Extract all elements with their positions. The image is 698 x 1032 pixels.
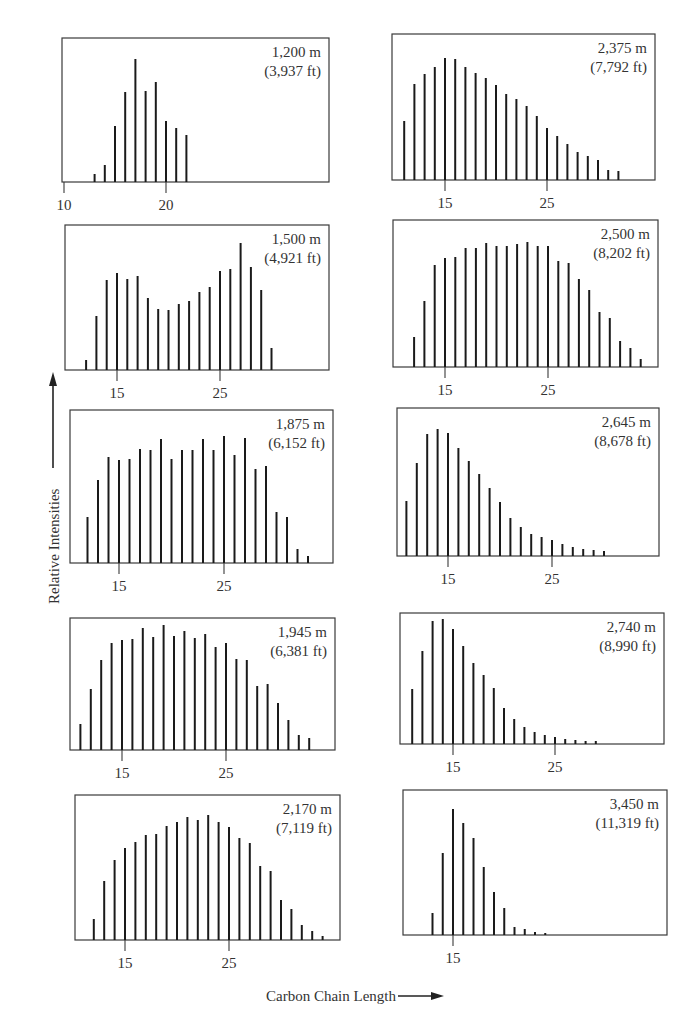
panel-frame xyxy=(393,220,658,367)
x-tick-label: 25 xyxy=(219,765,234,781)
x-tick-label: 25 xyxy=(540,195,555,211)
depth-panel: 15251,875 m(6,152 ft) xyxy=(70,410,333,594)
depth-feet-label: (7,119 ft) xyxy=(276,820,332,837)
depth-meters-label: 2,740 m xyxy=(607,619,657,635)
x-tick-label: 15 xyxy=(446,759,461,775)
x-tick-label: 15 xyxy=(441,571,456,587)
depth-meters-label: 1,875 m xyxy=(276,416,326,432)
x-tick-label: 10 xyxy=(57,197,72,213)
depth-meters-label: 2,170 m xyxy=(283,801,333,817)
x-tick-label: 25 xyxy=(222,955,237,971)
depth-panel: 153,450 m(11,319 ft) xyxy=(403,790,667,966)
x-tick-label: 25 xyxy=(217,578,232,594)
depth-meters-label: 3,450 m xyxy=(610,796,660,812)
depth-feet-label: (7,792 ft) xyxy=(590,59,647,76)
x-axis-arrow-icon xyxy=(396,989,446,1003)
depth-panel: 15252,500 m(8,202 ft) xyxy=(393,220,658,398)
depth-feet-label: (8,678 ft) xyxy=(594,433,651,450)
depth-feet-label: (8,990 ft) xyxy=(599,638,656,655)
x-tick-label: 15 xyxy=(110,385,125,401)
x-tick-label: 15 xyxy=(438,382,453,398)
x-axis-label-text: Carbon Chain Length xyxy=(266,988,396,1005)
depth-meters-label: 2,375 m xyxy=(598,40,648,56)
depth-panel: 15252,645 m(8,678 ft) xyxy=(397,408,659,587)
x-axis-label: Carbon Chain Length xyxy=(266,984,446,1008)
depth-meters-label: 1,200 m xyxy=(272,44,322,60)
x-tick-label: 15 xyxy=(438,195,453,211)
depth-feet-label: (3,937 ft) xyxy=(264,63,321,80)
depth-feet-label: (6,381 ft) xyxy=(270,643,327,660)
x-tick-label: 15 xyxy=(115,765,130,781)
x-tick-label: 25 xyxy=(545,571,560,587)
chromatogram-figure: 10201,200 m(3,937 ft)15252,375 m(7,792 f… xyxy=(0,0,698,1032)
depth-feet-label: (11,319 ft) xyxy=(595,815,659,832)
panel-frame xyxy=(397,408,659,556)
depth-feet-label: (4,921 ft) xyxy=(264,250,321,267)
x-tick-label: 25 xyxy=(548,759,563,775)
x-tick-label: 20 xyxy=(159,197,174,213)
y-axis-label-text: Relative Intensities xyxy=(46,488,62,604)
y-axis-arrow-icon: Relative Intensities xyxy=(8,368,68,608)
depth-feet-label: (6,152 ft) xyxy=(268,435,325,452)
x-tick-label: 15 xyxy=(446,950,461,966)
depth-panel: 15252,740 m(8,990 ft) xyxy=(400,613,664,775)
depth-panel: 15252,170 m(7,119 ft) xyxy=(75,795,340,971)
depth-meters-label: 2,500 m xyxy=(601,226,651,242)
depth-meters-label: 1,500 m xyxy=(272,231,322,247)
depth-panel: 15251,500 m(4,921 ft) xyxy=(65,225,329,401)
depth-panel: 15251,945 m(6,381 ft) xyxy=(70,618,335,781)
depth-panel: 15252,375 m(7,792 ft) xyxy=(392,34,655,211)
depth-meters-label: 1,945 m xyxy=(278,624,328,640)
x-tick-label: 15 xyxy=(118,955,133,971)
y-axis-label: Relative Intensities xyxy=(8,368,68,608)
depth-feet-label: (8,202 ft) xyxy=(593,245,650,262)
depth-panel: 10201,200 m(3,937 ft) xyxy=(57,38,330,213)
depth-meters-label: 2,645 m xyxy=(602,414,652,430)
x-tick-label: 25 xyxy=(213,385,228,401)
x-tick-label: 25 xyxy=(541,382,556,398)
x-tick-label: 15 xyxy=(112,578,127,594)
depth-panels: 10201,200 m(3,937 ft)15252,375 m(7,792 f… xyxy=(0,0,698,1032)
